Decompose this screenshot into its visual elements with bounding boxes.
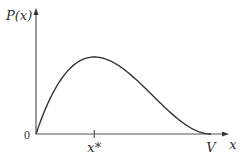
- x-tick-label-v: V: [206, 140, 217, 155]
- y-axis-label: P(x): [5, 8, 32, 23]
- origin-label: 0: [24, 128, 30, 142]
- x-axis-label: x: [229, 137, 237, 152]
- series-line-p-x: [36, 57, 211, 134]
- x-tick-label-x-star: x*: [87, 140, 101, 155]
- y-axis-arrowhead: [34, 8, 39, 15]
- chart: P(x) x 0 x*V: [0, 0, 243, 158]
- x-axis-arrowhead: [222, 132, 229, 137]
